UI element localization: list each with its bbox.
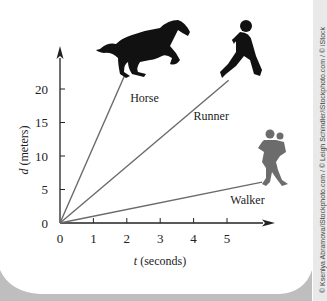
y-tick-label: 0	[42, 216, 49, 231]
y-axis-title: d (meters)	[17, 126, 31, 175]
y-tick-label: 5	[42, 182, 49, 197]
distance-time-chart: 01234505101520t (seconds)d (meters)Horse…	[0, 0, 327, 301]
walker-label: Walker	[230, 193, 264, 207]
photo-credit: © Ksenlya Abramova/iStockphoto.com / © L…	[319, 27, 326, 293]
x-tick-label: 4	[190, 231, 197, 246]
y-tick-label: 20	[35, 82, 48, 97]
photo-credit-strip: © Ksenlya Abramova/iStockphoto.com / © L…	[313, 0, 327, 301]
x-tick-label: 2	[124, 231, 131, 246]
x-tick-label: 1	[90, 231, 97, 246]
y-tick-label: 15	[35, 115, 48, 130]
chart-card: 01234505101520t (seconds)d (meters)Horse…	[0, 0, 327, 301]
x-axis-title: t (seconds)	[134, 254, 186, 268]
runner-label: Runner	[194, 109, 229, 123]
x-tick-label: 0	[57, 231, 64, 246]
y-tick-label: 10	[35, 149, 48, 164]
horse-label: Horse	[130, 91, 159, 105]
x-tick-label: 3	[157, 231, 164, 246]
x-tick-label: 5	[224, 231, 231, 246]
